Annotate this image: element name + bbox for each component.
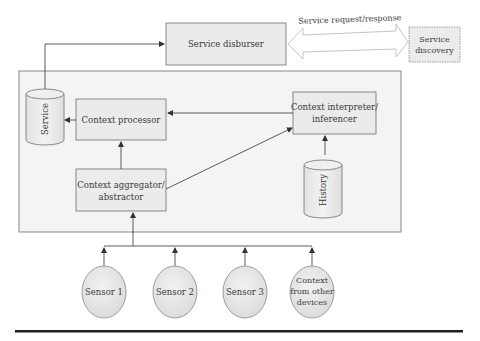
context-interpreter-box: Context interpreter/ inferencer [291,92,378,134]
other-devices-label-3: devices [297,298,327,307]
service-request-response-arrow: Service request/response [288,13,408,59]
sensor-1: Sensor 1 [82,266,126,318]
history-store-cylinder: History [304,160,342,218]
context-from-other-devices: Context from other devices [290,266,334,318]
other-devices-label-1: Context [296,276,329,285]
service-discovery-label-2: discovery [415,46,454,55]
context-processor-box: Context processor [76,99,166,140]
bottom-rule [15,330,463,333]
architecture-diagram: Service disburser Service request/respon… [0,0,480,341]
service-discovery-box: Service discovery [409,27,460,62]
other-devices-label-2: from other [290,287,334,296]
context-aggregator-box: Context aggregator/ abstractor [76,169,166,211]
service-store-cylinder: Service [26,89,64,145]
service-disburser-label: Service disburser [188,39,265,49]
sensor-3-label: Sensor 3 [226,287,264,297]
sensor-2: Sensor 2 [153,266,197,318]
context-aggregator-label-2: abstractor [99,192,145,202]
service-store-label: Service [40,103,50,135]
context-aggregator-label-1: Context aggregator/ [77,180,165,190]
history-store-label: History [318,174,328,206]
sensor-3: Sensor 3 [223,266,267,318]
service-disburser-box: Service disburser [166,23,286,65]
service-request-response-label: Service request/response [298,13,402,26]
sensor-1-label: Sensor 1 [85,287,123,297]
context-interpreter-label-1: Context interpreter/ [291,102,378,112]
context-processor-label: Context processor [82,115,162,125]
service-discovery-label-1: Service [419,35,450,44]
sensor-2-label: Sensor 2 [156,287,194,297]
context-interpreter-label-2: inferencer [312,114,358,124]
